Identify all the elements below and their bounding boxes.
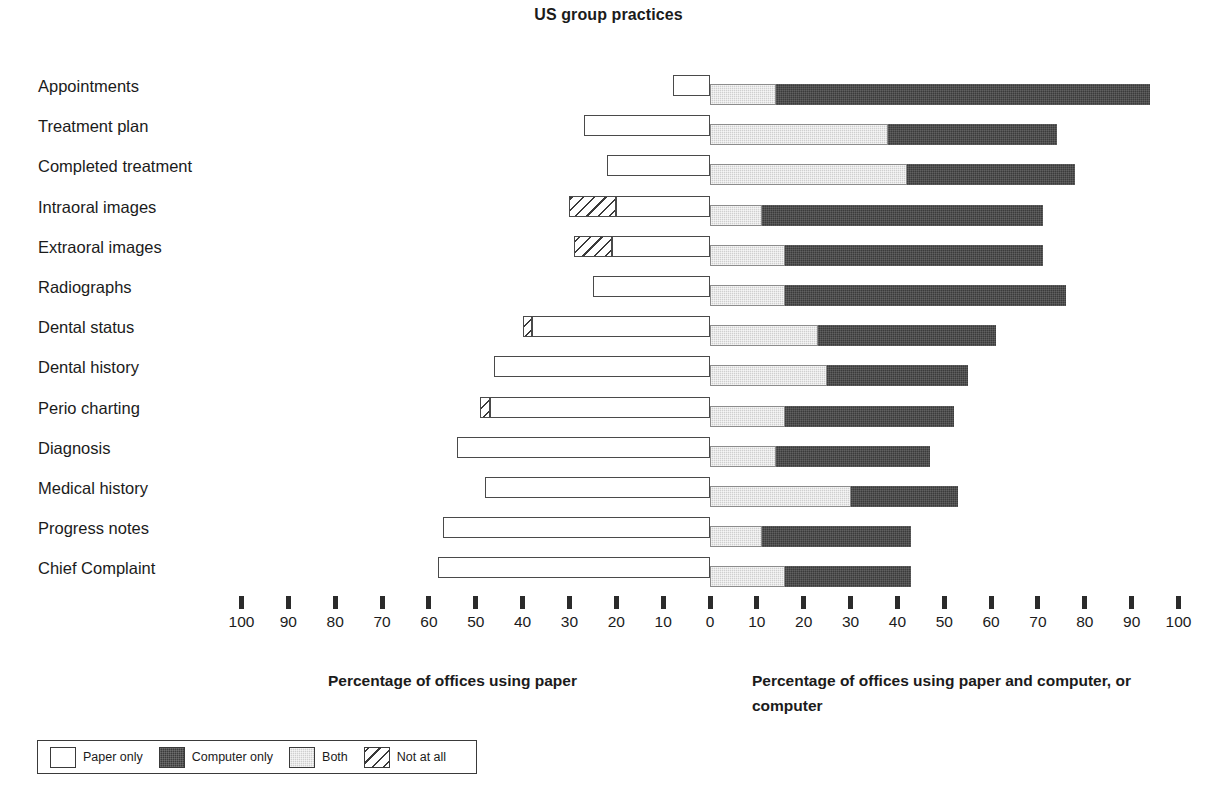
axis-tick-label: 10: [655, 613, 672, 631]
bar-segment-both: [710, 325, 818, 346]
category-label: Dental history: [38, 358, 139, 377]
bar-segment-paper-only: [494, 356, 710, 377]
bar-segment-both: [710, 164, 907, 185]
category-label: Intraoral images: [38, 198, 156, 217]
legend-swatch-paper-only-icon: [50, 747, 76, 768]
axis-tick-label: 80: [1076, 613, 1093, 631]
axis-tick: [1082, 596, 1087, 609]
axis-tick: [1035, 596, 1040, 609]
bar-segment-paper-only: [443, 517, 710, 538]
axis-tick: [989, 596, 994, 609]
axis-tick-label: 50: [936, 613, 953, 631]
bar-segment-paper-only: [673, 75, 710, 96]
axis-tick: [380, 596, 385, 609]
axis-tick-label: 30: [842, 613, 859, 631]
chart-plot-area: AppointmentsTreatment planCompleted trea…: [0, 68, 1217, 596]
chart-row: Diagnosis: [0, 430, 1217, 470]
axis-tick: [473, 596, 478, 609]
legend-label: Both: [322, 750, 348, 764]
axis-tick-label: 40: [889, 613, 906, 631]
axis-tick: [520, 596, 525, 609]
bar-segment-both: [710, 406, 785, 427]
chart-row: Completed treatment: [0, 148, 1217, 188]
chart-row: Dental history: [0, 349, 1217, 389]
bar-segment-paper-only: [584, 115, 710, 136]
axis-tick-label: 90: [280, 613, 297, 631]
axis-tick-label: 50: [467, 613, 484, 631]
axis-tick-label: 90: [1123, 613, 1140, 631]
bar-segment-paper-only: [612, 236, 710, 257]
axis-tick-label: 70: [373, 613, 390, 631]
axis-tick: [614, 596, 619, 609]
x-axis: 1009080706050403020100102030405060708090…: [0, 596, 1217, 646]
category-label: Diagnosis: [38, 439, 110, 458]
axis-tick-label: 100: [1166, 613, 1192, 631]
axis-caption-right: Percentage of offices using paper and co…: [752, 668, 1132, 718]
legend-swatch-not-at-all-icon: [364, 747, 390, 768]
legend-item-computer-only[interactable]: Computer only: [159, 747, 273, 768]
legend-item-both[interactable]: Both: [289, 747, 348, 768]
bar-segment-not-at-all: [574, 236, 611, 257]
bar-segment-both: [710, 124, 888, 145]
axis-tick: [1176, 596, 1181, 609]
bar-segment-both: [710, 285, 785, 306]
legend-label: Paper only: [83, 750, 143, 764]
axis-tick: [239, 596, 244, 609]
axis-tick: [333, 596, 338, 609]
axis-tick: [942, 596, 947, 609]
legend-swatch-computer-only-icon: [159, 747, 185, 768]
chart-row: Appointments: [0, 68, 1217, 108]
chart-row: Dental status: [0, 309, 1217, 349]
bar-segment-paper-only: [616, 196, 710, 217]
axis-tick: [1129, 596, 1134, 609]
bar-segment-both: [710, 486, 851, 507]
bar-segment-both: [710, 84, 776, 105]
bar-segment-both: [710, 205, 762, 226]
category-label: Completed treatment: [38, 157, 192, 176]
legend-item-paper-only[interactable]: Paper only: [50, 747, 143, 768]
bar-segment-paper-only: [593, 276, 710, 297]
bar-segment-computer-only: [710, 84, 1150, 105]
axis-tick-label: 100: [229, 613, 255, 631]
axis-tick-label: 40: [514, 613, 531, 631]
axis-tick-label: 70: [1029, 613, 1046, 631]
chart-row: Treatment plan: [0, 108, 1217, 148]
bar-segment-both: [710, 365, 827, 386]
category-label: Chief Complaint: [38, 559, 155, 578]
axis-caption-left: Percentage of offices using paper: [328, 668, 708, 693]
axis-tick-label: 10: [748, 613, 765, 631]
axis-tick-label: 30: [561, 613, 578, 631]
axis-tick-label: 0: [706, 613, 715, 631]
chart-row: Perio charting: [0, 390, 1217, 430]
category-label: Appointments: [38, 77, 139, 96]
bar-segment-paper-only: [485, 477, 710, 498]
bar-segment-not-at-all: [523, 316, 532, 337]
bar-segment-not-at-all: [569, 196, 616, 217]
page-title: US group practices: [0, 6, 1217, 24]
category-label: Extraoral images: [38, 238, 162, 257]
chart-row: Medical history: [0, 470, 1217, 510]
legend-item-not-at-all[interactable]: Not at all: [364, 747, 446, 768]
axis-tick: [895, 596, 900, 609]
chart-row: Extraoral images: [0, 229, 1217, 269]
legend-swatch-both-icon: [289, 747, 315, 768]
chart-legend: Paper onlyComputer onlyBothNot at all: [37, 740, 477, 774]
chart-row: Intraoral images: [0, 189, 1217, 229]
chart-row: Progress notes: [0, 510, 1217, 550]
bar-segment-paper-only: [457, 437, 710, 458]
axis-tick: [848, 596, 853, 609]
category-label: Perio charting: [38, 399, 140, 418]
axis-tick-label: 80: [327, 613, 344, 631]
category-label: Radiographs: [38, 278, 132, 297]
bar-segment-paper-only: [438, 557, 710, 578]
category-label: Dental status: [38, 318, 134, 337]
axis-tick: [567, 596, 572, 609]
chart-row: Chief Complaint: [0, 550, 1217, 590]
category-label: Progress notes: [38, 519, 149, 538]
axis-tick: [286, 596, 291, 609]
axis-tick: [754, 596, 759, 609]
legend-label: Not at all: [397, 750, 446, 764]
axis-tick: [661, 596, 666, 609]
category-label: Treatment plan: [38, 117, 148, 136]
axis-tick: [426, 596, 431, 609]
